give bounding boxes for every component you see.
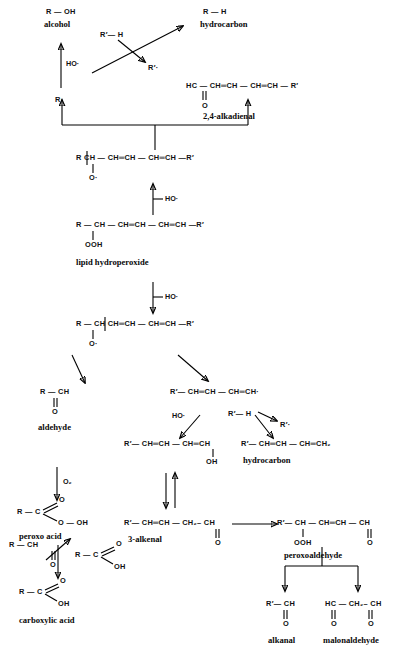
group-peroxoaldehyde-ooh: OOH <box>294 539 312 546</box>
atom-carboxylic-oxygen: O <box>60 577 66 584</box>
atom-alkoxy-upper-oxygen: O· <box>89 174 98 181</box>
atom-malonaldehyde-oxygen-left: O <box>331 620 337 627</box>
bond-carboxy-mid-to-oh <box>101 557 113 564</box>
label-3-alkenal: 3-alkenal <box>128 535 162 544</box>
bond-carboxy-mid-double-2 <box>102 550 115 556</box>
label-hydrocarbon-top: hydrocarbon <box>200 20 248 29</box>
atom-alkenal-oxygen: O <box>215 539 221 546</box>
atom-aldehyde-second-oxygen: O <box>50 561 56 568</box>
group-peroxo-ooh: O — OH <box>58 519 88 526</box>
structure-rprime-h-middle: R′— H <box>228 410 251 417</box>
atom-alkanal-oxygen: O <box>283 620 289 627</box>
label-hydroxyl-radical-3: HO· <box>165 293 178 300</box>
structure-pentadienyl-radical: R′— CH═CH — CH═CH· <box>170 388 259 395</box>
group-alkadienol-oh: OH <box>206 458 218 465</box>
structure-rprime-radical-middle: R′· <box>280 421 290 428</box>
bond-peroxo-double-1 <box>43 503 57 510</box>
arrow-pentadienyl-to-hydrocarbon <box>255 415 273 438</box>
structure-alkadienol: R′— CH═CH — CH═CH <box>124 440 210 447</box>
structure-peroxo-acid: R — C <box>17 508 41 515</box>
label-malonaldehyde: malonaldehyde <box>323 636 379 645</box>
group-hydroperoxide-ooh: OOH <box>85 241 103 248</box>
structure-alcohol: R — OH <box>46 8 76 15</box>
atom-carboxylic-middle-oxygen: O <box>116 540 122 547</box>
structure-rprime-radical: R′· <box>148 64 158 71</box>
structure-rprime-h: R′— H <box>100 31 123 38</box>
structure-alkadienal: HC — CH═CH — CH═CH — R′ <box>186 82 298 89</box>
arrow-scission-to-aldehyde <box>72 355 85 383</box>
bond-carboxy-double-1 <box>45 584 58 590</box>
label-carboxylic-acid: carboxylic acid <box>19 616 75 625</box>
structure-lipid-hydroperoxide: R — CH — CH═CH — CH═CH —R′ <box>76 221 204 228</box>
structure-aldehyde-second: R — CH <box>9 541 38 548</box>
label-alkadienal: 2,4-alkadienal <box>203 112 255 121</box>
structure-malonaldehyde: HC — CH₂– CH <box>325 600 382 607</box>
structure-carboxylic-acid-middle: R — C <box>75 551 99 558</box>
structure-hydrocarbon-middle: R′— CH═CH — CH═CH₂ <box>241 440 331 447</box>
group-carboxylic-middle-oh: OH <box>114 563 126 570</box>
group-carboxylic-oh: OH <box>58 600 70 607</box>
label-hydroxyl-radical-1: HO· <box>66 60 79 67</box>
structure-3-alkenal: R′— CH═CH — CH₂– CH <box>124 519 215 526</box>
arrow-scission-to-pentadienyl <box>178 355 208 381</box>
structure-alkanal: R′— CH <box>266 600 295 607</box>
label-lipid-hydroperoxide: lipid hydroperoxide <box>76 258 149 267</box>
bond-peroxo-double-2 <box>44 506 58 513</box>
structure-carboxylic-acid: R — C <box>19 588 43 595</box>
atom-malonaldehyde-oxygen-right: O <box>368 620 374 627</box>
structure-peroxoaldehyde: R′— CH — CH═CH — CH <box>277 519 370 526</box>
bond-carboxy-to-oh <box>45 594 57 601</box>
label-hydroxyl-radical-4: HO· <box>172 412 185 419</box>
arrow-to-carboxy-mid <box>46 539 70 560</box>
atom-peroxoaldehyde-oxygen: O <box>367 539 373 546</box>
structure-alkyl-radical: R· <box>55 96 63 103</box>
atom-alkoxy-middle-oxygen: O· <box>89 340 98 347</box>
label-dioxygen: O₂ <box>63 478 72 485</box>
atom-alkadienal-oxygen: O <box>202 102 208 109</box>
label-aldehyde: aldehyde <box>38 423 71 432</box>
structure-hydrocarbon-top: R — H <box>203 8 227 15</box>
bond-carboxy-double-2 <box>46 587 59 593</box>
atom-peroxo-oxygen: O <box>59 496 65 503</box>
label-hydroxyl-radical-2: HO· <box>165 195 178 202</box>
reaction-scheme-diagram: R — OH alcohol HO· R· R′— H R′· R — H hy… <box>0 0 399 670</box>
bond-peroxo-to-o <box>43 514 57 521</box>
structure-aldehyde: R — CH <box>40 388 69 395</box>
label-hydrocarbon-middle: hydrocarbon <box>243 456 291 465</box>
arrow-rprime-h-to-rprime-radical <box>118 40 145 62</box>
arrow-rprime-h-to-rprime-radical-mid <box>258 412 277 421</box>
label-alcohol: alcohol <box>44 20 70 29</box>
bond-carboxy-mid-double-1 <box>101 547 114 553</box>
structure-alkoxy-radical-upper: R CH — CH═CH — CH═CH —R′ <box>76 154 194 161</box>
atom-aldehyde-oxygen: O <box>52 408 58 415</box>
structure-alkoxy-radical-middle: R — CH CH═CH — CH═CH —R′ <box>76 320 194 327</box>
label-alkanal: alkanal <box>268 636 295 645</box>
label-peroxoaldehyde: peroxoaldehyde <box>284 551 342 560</box>
